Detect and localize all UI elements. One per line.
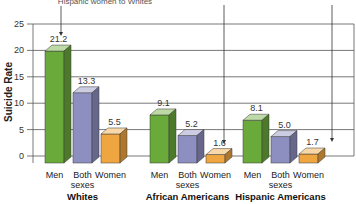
bar: 5.5: [101, 117, 127, 163]
category-label: Men: [244, 170, 262, 180]
bars: 21.213.35.59.15.21.68.15.01.7: [45, 34, 325, 163]
y-axis-label: Suicide Rate: [3, 62, 14, 122]
bar: 1.6: [206, 138, 232, 163]
value-label: 21.2: [50, 34, 68, 44]
value-label: 1.6: [213, 138, 226, 148]
value-label: 1.7: [306, 137, 319, 147]
bar: 5.0: [271, 120, 297, 163]
bar: 9.1: [150, 98, 176, 163]
category-labels: MenBothsexesWomenWhitesMenBothsexesWomen…: [46, 170, 326, 202]
category-label: Women: [293, 170, 324, 180]
y-tick-label: 20: [14, 45, 24, 55]
group-label: African Americans: [146, 191, 230, 202]
group-label: Hispanic Americans: [235, 191, 325, 202]
y-tick-label: 15: [14, 72, 24, 82]
category-label: Both: [178, 170, 197, 180]
top-annotation: Hispanic women to Whites: [58, 0, 152, 6]
value-label: 5.5: [108, 117, 121, 127]
value-label: 13.3: [78, 76, 96, 86]
category-label-line2: sexes: [176, 180, 200, 190]
category-label-line2: sexes: [71, 180, 95, 190]
y-tick-label: 10: [14, 98, 24, 108]
category-label: Men: [46, 170, 64, 180]
bar: 5.2: [178, 119, 204, 163]
value-label: 5.0: [278, 120, 291, 130]
bar: 21.2: [45, 34, 71, 163]
category-label: Women: [200, 170, 231, 180]
category-label: Women: [95, 170, 126, 180]
category-label-line2: sexes: [269, 180, 293, 190]
y-tick-label: 5: [19, 125, 24, 135]
bar: 1.7: [299, 137, 325, 163]
suicide-rate-bar-chart: 0510152025 21.213.35.59.15.21.68.15.01.7…: [0, 0, 356, 204]
y-tick-label: 0: [19, 151, 24, 161]
value-label: 9.1: [157, 98, 170, 108]
category-label: Both: [73, 170, 92, 180]
category-label: Men: [151, 170, 169, 180]
value-label: 5.2: [185, 119, 198, 129]
bar: 13.3: [73, 76, 99, 163]
group-label: Whites: [67, 191, 98, 202]
y-tick-label: 25: [14, 19, 24, 29]
value-label: 8.1: [250, 103, 263, 113]
bar: 8.1: [243, 103, 269, 163]
category-label: Both: [271, 170, 290, 180]
